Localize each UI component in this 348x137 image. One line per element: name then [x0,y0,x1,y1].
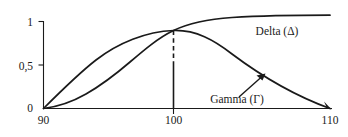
gamma-curve [44,30,331,108]
x-axis-label-100: 100 [165,114,183,126]
x-axis-label-90: 90 [38,114,50,126]
y-axis-label-0-5: 0,5 [19,60,34,73]
gamma-series-label: Gamma (Γ) [210,93,264,106]
y-axis-label-0: 0 [27,102,33,114]
tick-marks-group [39,22,174,115]
delta-series-label: Delta (Δ) [256,25,299,38]
chart-figure: 1 0,5 0 90 100 110 Delta (Δ) Gamma (Γ) [0,0,348,137]
chart-canvas: 1 0,5 0 90 100 110 Delta (Δ) Gamma (Γ) [0,0,348,137]
x-axis-label-110: 110 [322,114,339,126]
y-axis-label-1: 1 [27,16,33,28]
